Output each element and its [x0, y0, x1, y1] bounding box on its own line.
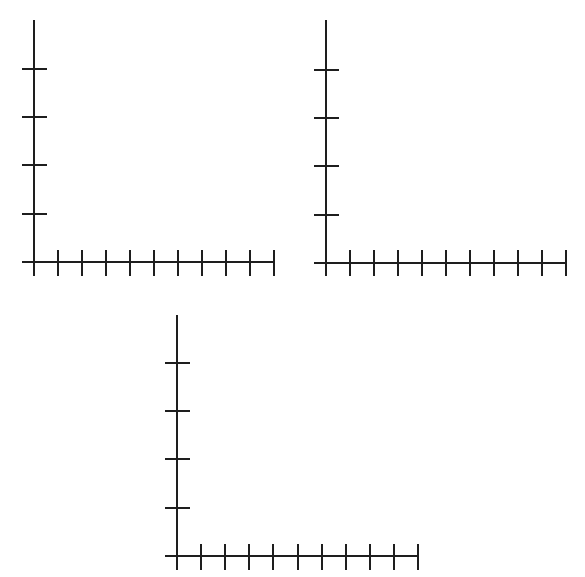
- axes-chart-top-right: [314, 20, 566, 276]
- blank-axes-diagram: [0, 0, 585, 577]
- axes-chart-top-left: [22, 20, 274, 276]
- x-ticks: [58, 250, 274, 276]
- axes-chart-bottom-center: [165, 315, 418, 570]
- x-ticks: [201, 544, 418, 570]
